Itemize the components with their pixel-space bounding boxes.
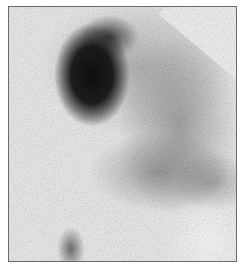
scan-image-frame xyxy=(8,6,237,262)
image-grain xyxy=(9,7,236,261)
